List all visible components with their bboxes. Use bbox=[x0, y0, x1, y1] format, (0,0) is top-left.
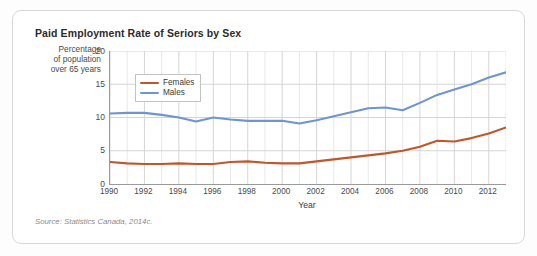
legend-swatch-females-icon bbox=[140, 82, 159, 85]
source-note: Source: Statistics Canada, 2014c. bbox=[35, 217, 152, 226]
x-axis-tick-labels: 1990199219941996199820002002200420062008… bbox=[109, 187, 509, 201]
y-tick-label: 5 bbox=[100, 145, 105, 155]
legend-label-males: Males bbox=[163, 88, 185, 98]
chart-legend: Females Males bbox=[135, 74, 201, 102]
x-axis-title: Year bbox=[109, 200, 505, 210]
legend-item-males: Males bbox=[140, 88, 194, 98]
x-tick-label: 1998 bbox=[238, 187, 256, 196]
x-tick-label: 1990 bbox=[100, 187, 118, 196]
y-tick-label: 15 bbox=[96, 79, 105, 89]
legend-item-females: Females bbox=[140, 78, 194, 88]
plot-area bbox=[109, 51, 505, 184]
x-tick-label: 2004 bbox=[341, 187, 359, 196]
x-tick-label: 2008 bbox=[410, 187, 428, 196]
x-tick-label: 1994 bbox=[169, 187, 187, 196]
x-tick-label: 2012 bbox=[479, 187, 497, 196]
chart-svg bbox=[110, 51, 506, 184]
y-tick-label: 20 bbox=[96, 46, 105, 56]
x-tick-label: 2006 bbox=[375, 187, 393, 196]
page-root: Paid Employment Rate of Seriors by Sex P… bbox=[0, 0, 537, 256]
x-tick-label: 2000 bbox=[272, 187, 290, 196]
legend-swatch-males-icon bbox=[140, 92, 159, 95]
legend-label-females: Females bbox=[163, 78, 194, 88]
chart-title: Paid Employment Rate of Seriors by Sex bbox=[35, 27, 241, 39]
y-tick-label: 10 bbox=[96, 112, 105, 122]
y-axis-tick-labels: 05101520 bbox=[75, 44, 105, 184]
figure-card: Paid Employment Rate of Seriors by Sex P… bbox=[12, 10, 525, 244]
x-tick-label: 2002 bbox=[306, 187, 324, 196]
plot-canvas bbox=[109, 51, 506, 185]
x-tick-label: 2010 bbox=[444, 187, 462, 196]
x-tick-label: 1992 bbox=[134, 187, 152, 196]
x-tick-label: 1996 bbox=[203, 187, 221, 196]
